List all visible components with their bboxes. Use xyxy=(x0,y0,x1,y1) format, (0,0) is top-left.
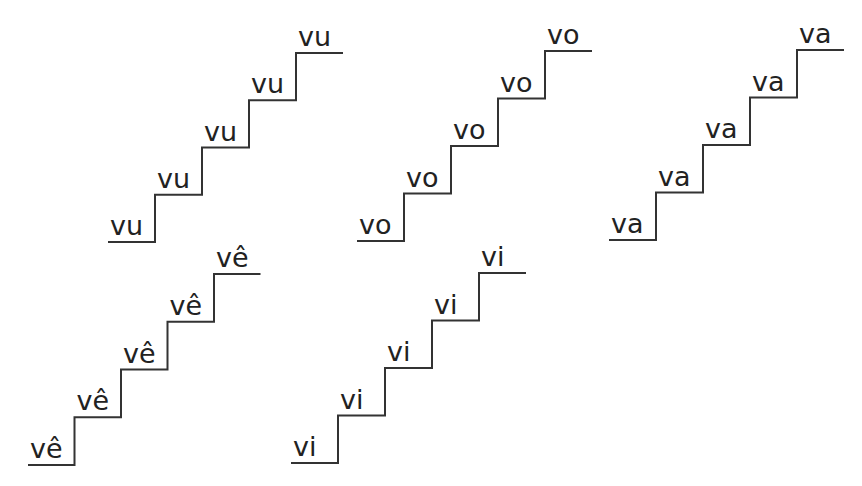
syllable-label: vi xyxy=(340,386,363,413)
syllable-label: vi xyxy=(434,291,457,318)
syllable-label: vi xyxy=(387,338,410,365)
staircase-line xyxy=(0,0,862,486)
syllable-label: vi xyxy=(481,243,504,270)
syllable-label: vi xyxy=(293,433,316,460)
staircase-vi: vivivivivi xyxy=(0,0,862,486)
